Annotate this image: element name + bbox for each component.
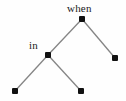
- tree-node-root: [79, 16, 85, 22]
- edge-root-to-right-leaf: [82, 19, 115, 58]
- tree-node-far-left-leaf: [12, 88, 18, 94]
- tree-node-mid-leaf: [78, 88, 84, 94]
- node-label-in: in: [29, 40, 38, 51]
- tree-node-right-leaf: [112, 55, 118, 61]
- tree-edge-layer: [0, 0, 126, 101]
- tree-node-in: [45, 52, 51, 58]
- node-label-when: when: [67, 3, 92, 14]
- edge-in-to-mid-leaf: [48, 55, 81, 91]
- edge-in-to-left-leaf: [15, 55, 48, 91]
- edge-root-to-in: [48, 19, 82, 55]
- tree-diagram: when in: [0, 0, 126, 101]
